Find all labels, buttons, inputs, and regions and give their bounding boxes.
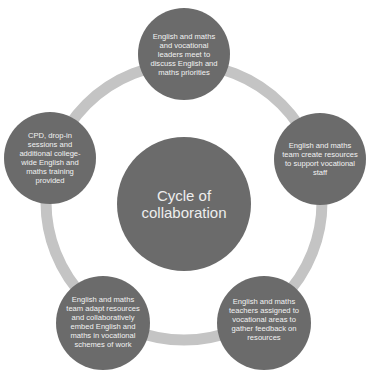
cycle-step-bottom-left-node: English and maths team adapt resources a… [56,276,150,370]
cycle-step-bottom-right-label: English and maths teachers assigned to v… [225,297,303,342]
cycle-step-right-label: English and maths team create resources … [282,141,358,177]
cycle-step-left-node: CPD, drop-in sessions and additional col… [4,112,96,204]
cycle-step-top-label: English and maths and vocational leaders… [148,32,220,77]
cycle-step-left-label: CPD, drop-in sessions and additional col… [14,131,86,185]
cycle-center-title: Cycle of collaboration [137,187,231,221]
cycle-step-bottom-right-node: English and maths teachers assigned to v… [217,276,311,370]
cycle-step-top-node: English and maths and vocational leaders… [138,8,230,100]
cycle-step-bottom-left-label: English and maths team adapt resources a… [64,295,142,349]
cycle-step-right-node: English and maths team create resources … [274,113,366,205]
cycle-center-node: Cycle of collaboration [117,137,251,271]
cycle-diagram: English and maths and vocational leaders… [0,0,367,370]
